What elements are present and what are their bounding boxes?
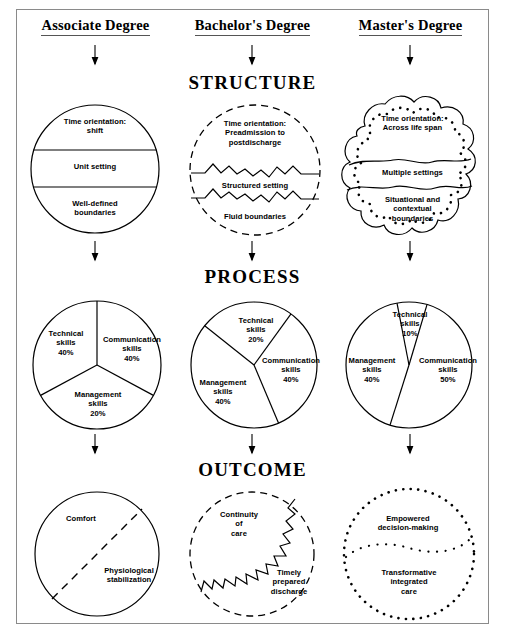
process-pie-masters-slice-label-3: Management skills 40%	[338, 356, 406, 384]
arrow-down-associate-1	[89, 44, 101, 66]
structure-bachelors-band-2: Structured setting	[200, 181, 310, 190]
column-header-masters: Master's Degree	[331, 17, 490, 36]
outcome-bachelors-region-2: Timely prepared discharge	[256, 568, 322, 596]
process-pie-bachelors-slice-label-1: Technical skills 20%	[226, 316, 286, 344]
structure-associate-band-1: Time orientation: shift	[45, 117, 145, 136]
column-header-masters-label: Master's Degree	[359, 17, 463, 36]
structure-masters: Time orientation: Across life span Multi…	[335, 88, 490, 250]
diagram-frame: Associate Degree Bachelor's Degree Maste…	[16, 9, 489, 624]
column-header-associate: Associate Degree	[17, 17, 174, 36]
arrow-down-bachelors-1	[246, 44, 258, 66]
outcome-associate-region-1: Comfort	[45, 514, 117, 523]
process-pie-bachelors-slice-label-2: Communication skills 40%	[256, 356, 326, 384]
section-label-outcome: OUTCOME	[17, 459, 488, 481]
outcome-associate-region-2: Physiological stabilization	[87, 566, 171, 585]
outcome-associate-shape	[29, 486, 179, 626]
process-pie-associate-slice-label-3: Management skills 20%	[65, 390, 131, 418]
outcome-associate: Comfort Physiological stabilization	[29, 486, 179, 626]
arrow-down-bachelors-3	[246, 433, 258, 455]
arrow-down-associate-2	[89, 240, 101, 262]
outcome-bachelors-shape	[182, 486, 332, 626]
process-pie-associate-slice-label-1: Technical skills 40%	[37, 329, 95, 357]
structure-bachelors-band-1: Time orientation: Preadmission to postdi…	[200, 119, 310, 147]
outcome-masters-region-2: Transformative integrated care	[362, 568, 456, 596]
arrow-down-masters-1	[404, 44, 416, 66]
structure-masters-band-2: Multiple settings	[360, 168, 465, 177]
process-pie-masters-slice-label-2: Communication skills 50%	[413, 356, 483, 384]
process-pie-bachelors: Technical skills 20% Communication skill…	[182, 294, 332, 442]
process-pie-associate-shape	[29, 294, 179, 442]
column-header-bachelors-label: Bachelor's Degree	[195, 17, 310, 36]
structure-associate-band-3: Well-defined boundaries	[45, 199, 145, 218]
structure-masters-band-3: Situational and contextual boundaries	[360, 195, 465, 223]
structure-bachelors-band-3: Fluid boundaries	[200, 212, 310, 221]
arrow-down-masters-3	[404, 433, 416, 455]
column-header-bachelors: Bachelor's Degree	[174, 17, 331, 36]
structure-bachelors: Time orientation: Preadmission to postdi…	[179, 93, 334, 248]
section-label-process: PROCESS	[17, 266, 488, 288]
structure-bachelors-shape	[179, 93, 334, 248]
outcome-masters-shape	[337, 482, 490, 628]
arrow-down-bachelors-2	[246, 240, 258, 262]
structure-masters-band-1: Time orientation: Across life span	[360, 114, 465, 133]
outcome-bachelors: Continuity of care Timely prepared disch…	[182, 486, 332, 626]
process-pie-bachelors-slice-label-3: Management skills 40%	[190, 378, 256, 406]
arrow-down-masters-2	[404, 240, 416, 262]
outcome-bachelors-region-1: Continuity of care	[208, 510, 270, 538]
process-pie-masters: Technical skills 10% Communication skill…	[337, 294, 490, 442]
outcome-masters: Empowered decision-making Transformative…	[337, 482, 490, 628]
outcome-masters-region-1: Empowered decision-making	[356, 514, 460, 533]
process-pie-associate-slice-label-2: Communication skills 40%	[99, 335, 165, 363]
structure-associate: Time orientation: shift Unit setting Wel…	[29, 95, 179, 247]
process-pie-associate: Technical skills 40% Communication skill…	[29, 294, 179, 442]
arrow-down-associate-3	[89, 433, 101, 455]
process-pie-masters-slice-label-1: Technical skills 10%	[382, 310, 438, 338]
column-header-associate-label: Associate Degree	[41, 17, 149, 36]
structure-associate-band-2: Unit setting	[45, 162, 145, 171]
